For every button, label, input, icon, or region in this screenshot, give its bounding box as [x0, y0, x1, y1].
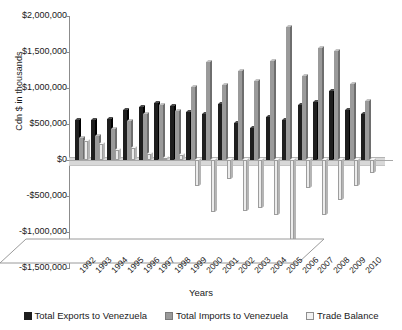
bar-imports	[365, 101, 369, 160]
bar-group	[139, 16, 155, 268]
bar-trade-balance	[338, 160, 342, 200]
bar-group	[186, 16, 202, 268]
bar-group	[218, 16, 234, 268]
y-tick-label: $1,000,000	[3, 83, 67, 92]
bar-group	[266, 16, 282, 268]
bar-trade-balance	[84, 141, 88, 160]
bar-imports	[206, 62, 210, 160]
exports-swatch	[24, 312, 32, 320]
bar-trade-balance	[179, 155, 183, 160]
legend-label: Total Exports to Venezuela	[35, 310, 148, 321]
bar-trade-balance	[115, 150, 119, 160]
bar-group	[91, 16, 107, 268]
legend-item[interactable]: Total Exports to Venezuela	[24, 310, 148, 321]
chart-legend: Total Exports to VenezuelaTotal Imports …	[0, 310, 402, 321]
legend-item[interactable]: Total Imports to Venezuela	[165, 310, 288, 321]
y-tick-label: -$1,500,000	[3, 263, 67, 272]
y-tick-label: $2,000,000	[3, 11, 67, 20]
bar-trade-balance	[147, 154, 151, 160]
bar-group	[329, 16, 345, 268]
y-tick-label: $500,000	[3, 119, 67, 128]
bar-groups	[69, 16, 393, 268]
bar-trade-balance	[322, 160, 326, 215]
bar-trade-balance	[306, 160, 310, 188]
bar-imports	[191, 87, 195, 160]
bar-imports	[159, 105, 163, 160]
bar-trade-balance	[274, 160, 278, 215]
imports-swatch	[165, 312, 173, 320]
bar-group	[345, 16, 361, 268]
bar-group	[154, 16, 170, 268]
bar-group	[123, 16, 139, 268]
bar-group	[282, 16, 298, 268]
bar-trade-balance	[99, 144, 103, 160]
bar-trade-balance	[243, 160, 247, 211]
bar-group	[298, 16, 314, 268]
bar-imports	[318, 48, 322, 160]
y-tick-label: -$500,000	[3, 191, 67, 200]
bar-group	[75, 16, 91, 268]
plot-area	[69, 16, 393, 268]
bar-imports	[286, 27, 290, 160]
bar-imports	[222, 85, 226, 160]
bar-trade-balance	[163, 158, 167, 160]
legend-item[interactable]: Trade Balance	[306, 310, 378, 321]
bar-trade-balance	[370, 160, 374, 173]
y-tick-label: $1,500,000	[3, 47, 67, 56]
bar-trade-balance	[195, 160, 199, 186]
bar-imports	[270, 61, 274, 160]
bar-group	[361, 16, 377, 268]
bar-group	[313, 16, 329, 268]
bar-group	[170, 16, 186, 268]
x-axis-title: Years	[0, 287, 402, 298]
bar-imports	[175, 111, 179, 160]
bar-group	[250, 16, 266, 268]
legend-label: Total Imports to Venezuela	[176, 310, 288, 321]
legend-label: Trade Balance	[317, 310, 378, 321]
bar-trade-balance	[131, 148, 135, 160]
balance-swatch	[306, 312, 314, 320]
bar-chart: Cdn $ in thousands $2,000,000$1,500,000$…	[0, 0, 402, 330]
bar-imports	[302, 76, 306, 160]
bar-group	[234, 16, 250, 268]
bar-imports	[334, 51, 338, 160]
bar-group	[107, 16, 123, 268]
bar-group	[202, 16, 218, 268]
bar-trade-balance	[354, 160, 358, 186]
bar-imports	[254, 81, 258, 160]
bar-trade-balance	[227, 160, 231, 179]
bar-imports	[350, 84, 354, 160]
bar-trade-balance	[258, 160, 262, 208]
y-tick-label: -$1,000,000	[3, 227, 67, 236]
bar-imports	[238, 71, 242, 160]
bar-trade-balance	[211, 160, 215, 212]
y-axis-tick-labels: $2,000,000$1,500,000$1,000,000$500,000$0…	[0, 0, 67, 330]
y-tick-label: $0	[3, 155, 67, 164]
